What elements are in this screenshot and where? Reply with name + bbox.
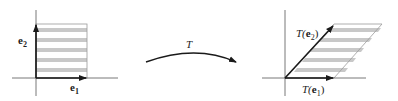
e1-label: e1 (70, 81, 79, 96)
transform-arrow: T (146, 38, 236, 62)
right-panel: T(e2) T(e1) (262, 10, 382, 98)
transform-label: T (186, 38, 193, 50)
T-e1-label: T(e1) (302, 83, 325, 98)
e2-label: e2 (18, 34, 27, 49)
T-e2-label: T(e2) (296, 27, 319, 42)
transformation-diagram: e2 e1 T T(e2) T(e1) (0, 0, 398, 101)
left-panel: e2 e1 (12, 10, 118, 96)
square-stripes (36, 28, 87, 72)
